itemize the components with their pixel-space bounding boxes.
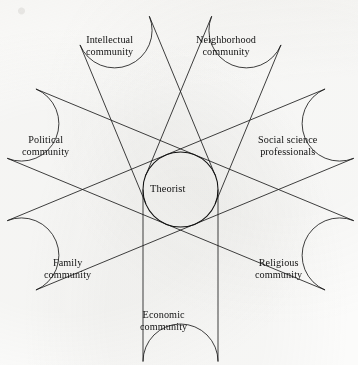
petal-label-line1: Political	[28, 134, 63, 145]
petal-label-neighborhood: Neighborhood community	[196, 34, 256, 57]
figure-radial-petal-diagram: Intellectual community Neighborhood comm…	[0, 0, 358, 365]
petal-label-line1: Family	[53, 257, 82, 268]
petal-label-line1: Social science	[258, 134, 317, 145]
petal-label-line2: community	[255, 269, 302, 281]
petal-label-line1: Religious	[259, 257, 299, 268]
center-label-theorist: Theorist	[150, 183, 185, 195]
petal-outline-economic	[143, 190, 218, 362]
petal-label-religious: Religious community	[255, 257, 302, 280]
petal-label-social-science: Social science professionals	[258, 134, 317, 157]
petal-label-intellectual: Intellectual community	[86, 34, 133, 57]
petal-label-line2: community	[140, 321, 187, 333]
petal-label-economic: Economic community	[140, 309, 187, 332]
petal-label-political: Political community	[22, 134, 69, 157]
petal-outline-religious	[7, 155, 195, 290]
petal-label-line2: community	[196, 46, 256, 58]
petal-label-family: Family community	[44, 257, 91, 280]
petal-label-line1: Intellectual	[86, 34, 133, 45]
petal-label-line2: community	[44, 269, 91, 281]
petal-label-line2: community	[22, 146, 69, 158]
petal-label-line1: Economic	[143, 309, 185, 320]
petal-label-line2: professionals	[258, 146, 317, 158]
petal-label-line1: Neighborhood	[196, 34, 256, 45]
petal-label-line2: community	[86, 46, 133, 58]
